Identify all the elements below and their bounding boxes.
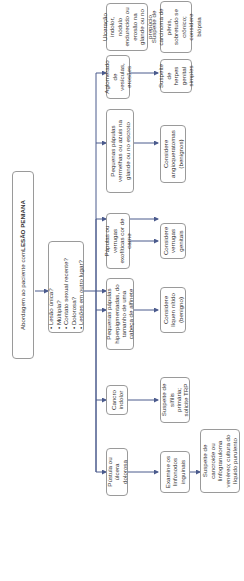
- question-item: Múltipla?: [55, 258, 62, 323]
- step-examine-nodes: Examine os linfonodos inguinais: [160, 451, 190, 493]
- step-angiokeratomas: Considere angioqueratomas (benignos): [160, 125, 186, 183]
- step-penile-carcinoma: Suspeite de carcinoma de pênis, sobretud…: [160, 1, 192, 53]
- step-chancroid-lgv: Suspeite de cancroide ou linfogranuloma …: [200, 429, 240, 493]
- questions-box: Lesão única? Múltipla? Contato sexual re…: [48, 241, 84, 333]
- question-item: Dolorosa?: [70, 258, 77, 323]
- step-genital-warts: Considere verrugas genitais: [160, 223, 186, 259]
- finding-red-blue-papules: Pequenas pápulas vermelhas ou azuis na g…: [106, 109, 134, 193]
- title-prefix: Abordagem ao paciente com: [19, 251, 26, 330]
- finding-vesicles: Aglomerado de vesículas, erosões: [106, 55, 130, 99]
- step-herpes: Suspeite de herpes genital simples: [160, 59, 192, 93]
- title-bold: LESÃO PENIANA: [19, 200, 26, 251]
- step-lichen-nitidus: Considere líquen nítido (benigno): [160, 287, 186, 333]
- flowchart: Abordagem ao paciente com LESÃO PENIANA …: [0, 0, 244, 581]
- finding-painful-ulcer: Pústula ou úlcera dolorosa: [106, 448, 128, 496]
- finding-indurated-nodule: Ulceração indolor, nódulo endurecido ou …: [106, 3, 148, 51]
- question-item: Lesão única?: [47, 258, 54, 323]
- step-syphilis: Suspeite de sífilis primária; solicite T…: [160, 377, 190, 423]
- finding-painless-chancre: Cancro indolor: [106, 385, 128, 415]
- finding-pinhead-papules: Pequenas pápulas hiperpigmentadas, do ta…: [106, 278, 134, 350]
- title-box: Abordagem ao paciente com LESÃO PENIANA: [12, 171, 34, 359]
- question-item: Lesões em outro lugar?: [77, 258, 84, 323]
- question-item: Contato sexual recente?: [62, 258, 69, 323]
